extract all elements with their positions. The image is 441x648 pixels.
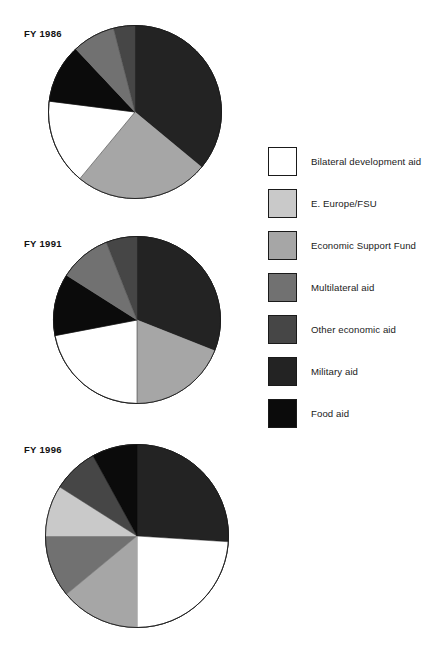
legend-label-e-europe-fsu: E. Europe/FSU [311,198,377,209]
legend-item-economic-support-fund: Economic Support Fund [268,224,438,266]
legend-swatch-icon-food-aid [268,399,297,428]
legend-label-bilateral-development-aid: Bilateral development aid [311,156,421,167]
pie-slice [137,536,228,628]
pie-svg-fy1996 [44,436,230,636]
legend-label-other-economic-aid: Other economic aid [311,324,396,335]
legend-label-military-aid: Military aid [311,366,358,377]
legend-item-bilateral-development-aid: Bilateral development aid [268,140,438,182]
legend-swatch-icon-economic-support-fund [268,231,297,260]
legend-swatch-icon-military-aid [268,357,297,386]
legend: Bilateral development aid E. Europe/FSU … [268,140,438,434]
legend-swatch-icon-multilateral-aid [268,273,297,302]
legend-item-food-aid: Food aid [268,392,438,434]
pie-svg-fy1986 [47,22,223,202]
legend-swatch-icon-other-economic-aid [268,315,297,344]
legend-swatch-icon-e-europe-fsu [268,189,297,218]
pie-svg-fy1991 [52,230,222,410]
pie-chart-fy1991: FY 1991 [0,212,260,417]
legend-label-economic-support-fund: Economic Support Fund [311,240,416,251]
legend-item-other-economic-aid: Other economic aid [268,308,438,350]
legend-item-multilateral-aid: Multilateral aid [268,266,438,308]
pie-chart-fy1986: FY 1986 [0,0,260,205]
legend-item-e-europe-fsu: E. Europe/FSU [268,182,438,224]
pie-chart-fy1996: FY 1996 [0,424,260,639]
legend-label-multilateral-aid: Multilateral aid [311,282,374,293]
pie-slice [137,445,228,542]
legend-swatch-icon-bilateral-development-aid [268,147,297,176]
legend-item-military-aid: Military aid [268,350,438,392]
legend-label-food-aid: Food aid [311,408,349,419]
pie-chart-figure: FY 1986 FY 1991 FY 1996 Bilateral develo… [0,0,441,648]
